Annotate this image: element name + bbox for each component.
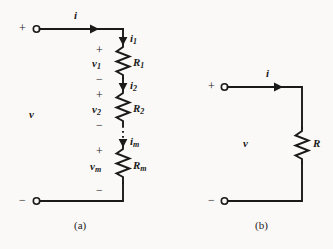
source-voltage-label-b: v <box>243 138 248 149</box>
arrow-b-source-current-head <box>274 83 283 92</box>
branch-current-label-i2: i2 <box>130 80 137 93</box>
wire-b-bottom <box>228 163 302 201</box>
terminal-node-a-positive <box>33 26 39 32</box>
branch-voltage-label-v1: v1 <box>92 58 101 71</box>
resistor-a-R1 <box>117 44 130 78</box>
wire-a-bottom <box>40 183 123 201</box>
polarity-minus-R1: − <box>96 73 103 85</box>
branch-voltage-label-vm: vm <box>90 161 101 174</box>
polarity-plus-R1: + <box>96 44 103 56</box>
resistor-label-R1: R1 <box>133 57 144 70</box>
figure-series-resistors: + − v i i1 + v1 R1 − i2 + v2 R2 − im + v… <box>0 0 333 249</box>
terminal-node-a-negative <box>33 198 39 204</box>
circuit-drawing <box>0 0 333 249</box>
terminal-node-b-negative <box>221 198 227 204</box>
caption-a: (a) <box>74 220 86 231</box>
resistor-label-Rm: Rm <box>133 160 147 173</box>
wire-b-top <box>228 87 302 128</box>
resistor-a-R2 <box>117 90 130 125</box>
source-voltage-label-a: v <box>29 109 34 120</box>
terminal-label-a-positive: + <box>19 22 26 34</box>
terminal-label-b-positive: + <box>208 80 215 92</box>
resistor-label-R2: R2 <box>133 103 144 116</box>
source-current-label-b: i <box>266 68 269 79</box>
terminal-node-b-positive <box>221 84 227 90</box>
terminal-label-a-negative: − <box>19 194 26 206</box>
resistor-label-R: R <box>313 138 320 149</box>
branch-current-label-i1: i1 <box>130 33 137 46</box>
caption-b: (b) <box>255 220 268 231</box>
polarity-plus-R2: + <box>96 89 103 101</box>
branch-voltage-label-v2: v2 <box>92 104 101 117</box>
resistor-a-Rm <box>117 146 130 183</box>
terminal-label-b-negative: − <box>208 194 215 206</box>
polarity-minus-Rm: − <box>96 184 103 196</box>
branch-current-label-im: im <box>130 136 139 149</box>
resistor-b-R <box>296 128 309 163</box>
arrow-a-source-current-head <box>90 25 99 34</box>
polarity-minus-R2: − <box>96 119 103 131</box>
source-current-label-a: i <box>74 10 77 21</box>
polarity-plus-Rm: + <box>96 145 103 157</box>
